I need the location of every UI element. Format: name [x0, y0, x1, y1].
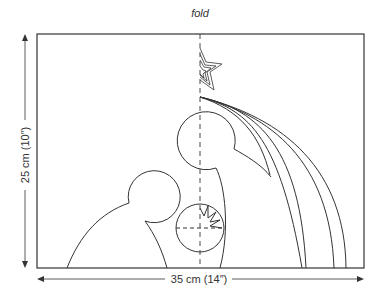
height-label: 25 cm (10″)	[19, 127, 31, 183]
kneeling-figure-head	[128, 171, 180, 223]
star-icon	[200, 48, 222, 90]
height-dimension: 25 cm (10″)	[19, 34, 31, 268]
fold-label: fold	[191, 7, 210, 19]
width-dimension: 35 cm (14″)	[37, 273, 364, 285]
width-label: 35 cm (14″)	[171, 273, 227, 285]
tall-figure-head	[177, 112, 235, 170]
kneeling-figure	[67, 171, 180, 268]
card-outline	[37, 34, 364, 268]
nativity-card-diagram: fold 25 cm (10″	[0, 0, 383, 300]
tall-figure	[177, 112, 271, 268]
shooting-star-trails	[200, 97, 346, 268]
